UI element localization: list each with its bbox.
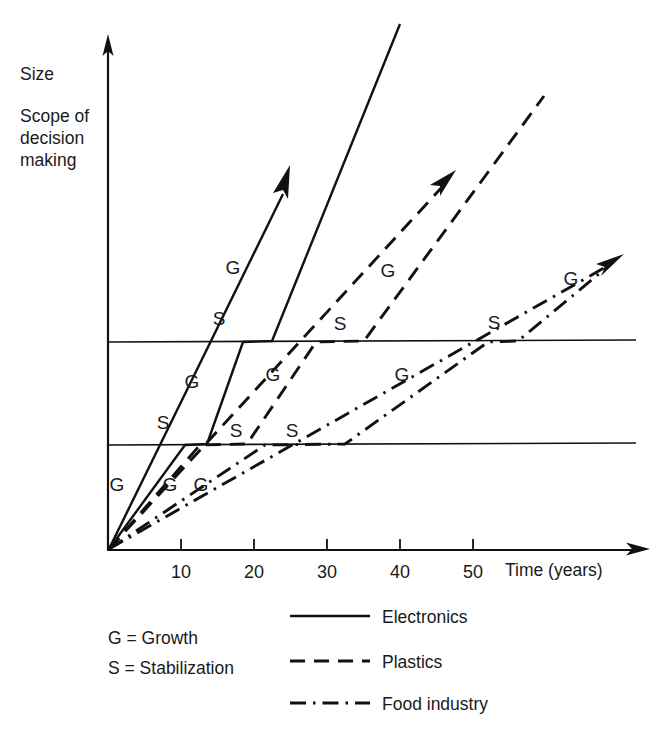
y-axis-title-block: Size Scope of decision making [20, 64, 89, 170]
plastics-label-g2: G [266, 364, 281, 385]
legend-item-electronics: Electronics [290, 607, 468, 627]
legend: Electronics Plastics Food industry [290, 607, 488, 714]
legend-label-electronics: Electronics [382, 607, 468, 627]
electronics-label-s2: S [213, 308, 226, 329]
legend-label-plastics: Plastics [382, 652, 443, 672]
plastics-label-g3: G [381, 260, 396, 281]
electronics-label-g1: G [110, 474, 125, 495]
electronics-staircase [109, 24, 400, 549]
electronics-label-g2: G [185, 371, 200, 392]
legend-label-food-industry: Food industry [382, 694, 488, 714]
x-axis-ticks [181, 539, 473, 550]
electronics-label-g3: G [226, 257, 241, 278]
series-electronics [109, 24, 400, 549]
electronics-label-s1: S [157, 412, 170, 433]
axes-group [103, 34, 651, 556]
plastics-label-s1: S [230, 420, 243, 441]
plastics-label-g1: G [163, 474, 178, 495]
chart-svg: 10 20 30 40 50 Time (years) Size Scope o… [0, 0, 668, 729]
series-food-industry [109, 254, 624, 549]
y-axis-title-line-2: Scope of [20, 106, 89, 126]
x-tick-label-30: 30 [317, 562, 337, 582]
food-industry-label-g2: G [395, 364, 410, 385]
y-axis-title-line-3: decision [20, 128, 84, 148]
food-industry-label-g3: G [564, 268, 579, 289]
reference-gridlines [108, 340, 636, 445]
plastics-label-s2: S [334, 313, 347, 334]
electronics-arrowhead [273, 165, 290, 199]
chart-figure: 10 20 30 40 50 Time (years) Size Scope o… [0, 0, 668, 729]
food-industry-label-g1: G [194, 474, 209, 495]
x-tick-label-10: 10 [171, 562, 191, 582]
food-industry-arrowhead [596, 254, 624, 276]
x-tick-label-20: 20 [244, 562, 264, 582]
x-axis-title: Time (years) [505, 560, 603, 580]
food-industry-label-s2: S [488, 312, 501, 333]
symbol-key: G = Growth S = Stabilization [108, 628, 234, 678]
food-industry-envelope [109, 268, 604, 549]
legend-item-food-industry: Food industry [290, 694, 488, 714]
x-tick-label-40: 40 [390, 562, 410, 582]
y-axis-title-line-1: Size [20, 64, 54, 84]
gridline-upper [108, 340, 636, 342]
food-industry-point-labels: G S G S G [194, 268, 579, 495]
y-axis-title-line-4: making [20, 150, 76, 170]
key-growth: G = Growth [108, 628, 198, 648]
key-stabilization: S = Stabilization [108, 658, 234, 678]
x-axis-tick-labels: 10 20 30 40 50 [171, 562, 483, 582]
plastics-arrowhead [430, 170, 456, 196]
x-tick-label-50: 50 [463, 562, 483, 582]
legend-item-plastics: Plastics [290, 652, 443, 672]
food-industry-label-s1: S [286, 420, 299, 441]
